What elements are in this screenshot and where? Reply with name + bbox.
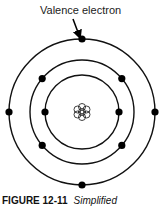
- electron: [78, 35, 85, 42]
- caption-number: FIGURE 12-11: [2, 195, 68, 206]
- electron-shell-1: [45, 75, 119, 149]
- label-arrow: [73, 19, 79, 35]
- electron: [39, 75, 46, 82]
- atom-diagram: [0, 0, 161, 207]
- figure-caption: FIGURE 12-11Simplified: [2, 195, 117, 206]
- electron: [115, 108, 122, 115]
- electron: [39, 142, 46, 149]
- electron: [118, 142, 125, 149]
- electron: [151, 108, 158, 115]
- electron: [118, 75, 125, 82]
- electron: [41, 108, 48, 115]
- electron-shell-3: [9, 39, 155, 185]
- electron: [78, 181, 85, 188]
- electron: [5, 108, 12, 115]
- nucleus: [74, 104, 90, 121]
- caption-text: Simplified: [74, 195, 117, 206]
